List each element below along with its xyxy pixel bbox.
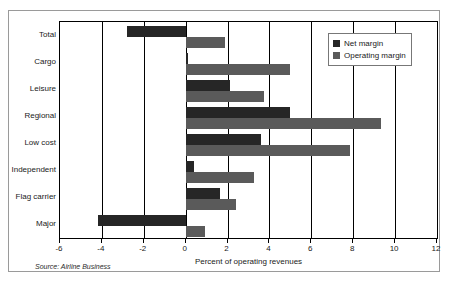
x-axis-tick-label: 2 — [224, 244, 228, 253]
x-axis-tick — [268, 239, 269, 243]
bar-operating-margin — [186, 64, 291, 75]
x-axis-tick — [436, 239, 437, 243]
y-axis-label-total: Total — [39, 30, 56, 40]
gridline — [437, 22, 438, 238]
x-axis-tick — [185, 239, 186, 243]
bar-operating-margin — [186, 226, 205, 237]
y-axis-label-low-cost: Low cost — [24, 138, 56, 148]
x-axis-tick — [394, 239, 395, 243]
x-axis-tick-label: 8 — [350, 244, 354, 253]
bar-group — [60, 130, 437, 157]
bar-net-margin — [186, 80, 230, 91]
x-axis-tick-label: -2 — [139, 244, 146, 253]
chart-legend: Net margin Operating margin — [328, 33, 412, 66]
bar-net-margin — [186, 134, 261, 145]
x-axis-tick — [310, 239, 311, 243]
bar-net-margin — [98, 215, 186, 226]
bar-net-margin — [186, 161, 194, 172]
x-axis-tick — [59, 239, 60, 243]
x-axis-tick-label: 12 — [432, 244, 441, 253]
y-axis-category-labels: TotalCargoLeisureRegionalLow costIndepen… — [9, 21, 56, 239]
x-axis-tick-label: 0 — [182, 244, 186, 253]
x-axis-tick-label: 4 — [266, 244, 270, 253]
y-axis-label-cargo: Cargo — [34, 57, 56, 67]
legend-swatch-net-margin — [333, 40, 340, 47]
bar-group — [60, 76, 437, 103]
bar-group — [60, 103, 437, 130]
chart-figure: TotalCargoLeisureRegionalLow costIndepen… — [8, 10, 440, 272]
bar-operating-margin — [186, 199, 236, 210]
x-axis-tick — [143, 239, 144, 243]
bar-group — [60, 211, 437, 238]
y-axis-label-flag-carrier: Flag carrier — [16, 192, 56, 202]
x-axis-tick-label: 10 — [390, 244, 399, 253]
legend-item-net-margin: Net margin — [333, 38, 406, 49]
x-axis-tick — [101, 239, 102, 243]
bar-group — [60, 157, 437, 184]
bar-net-margin — [186, 188, 221, 199]
y-axis-label-regional: Regional — [24, 111, 56, 121]
x-axis-tick — [352, 239, 353, 243]
x-axis-tick-label: -6 — [55, 244, 62, 253]
legend-label-operating-margin: Operating margin — [344, 51, 406, 60]
x-axis-tick-label: -4 — [97, 244, 104, 253]
bar-net-margin — [186, 53, 188, 64]
y-axis-label-independent: Independent — [12, 165, 57, 175]
source-note: Source: Airline Business — [35, 263, 111, 270]
y-axis-label-major: Major — [36, 219, 56, 229]
legend-swatch-operating-margin — [333, 52, 340, 59]
bar-operating-margin — [186, 37, 226, 48]
bar-operating-margin — [186, 172, 254, 183]
bar-operating-margin — [186, 145, 350, 156]
bar-net-margin — [127, 26, 186, 37]
bar-operating-margin — [186, 118, 382, 129]
bar-group — [60, 184, 437, 211]
legend-item-operating-margin: Operating margin — [333, 50, 406, 61]
legend-label-net-margin: Net margin — [344, 39, 383, 48]
x-axis: -6-4-2024681012 — [59, 239, 438, 255]
y-axis-label-leisure: Leisure — [30, 84, 56, 94]
x-axis-tick-label: 6 — [308, 244, 312, 253]
x-axis-tick — [227, 239, 228, 243]
bar-operating-margin — [186, 91, 265, 102]
bar-net-margin — [186, 107, 291, 118]
x-axis-title: Percent of operating revenues — [59, 257, 438, 266]
